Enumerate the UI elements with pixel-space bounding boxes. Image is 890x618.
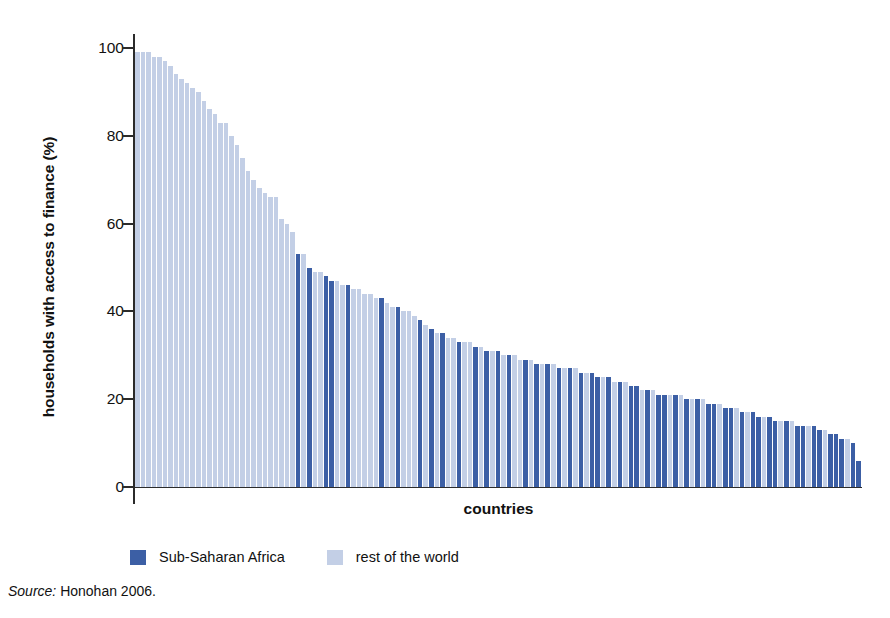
legend-item-rest-of-the-world: rest of the world	[327, 549, 459, 565]
legend-label-rest-of-the-world: rest of the world	[356, 549, 459, 565]
y-axis-tick-mark	[122, 223, 134, 225]
y-axis-tick-labels: 100806040200	[78, 0, 124, 618]
y-axis-tick-label: 80	[78, 128, 124, 144]
y-axis-title: households with access to finance (%)	[40, 62, 58, 492]
x-axis-title: countries	[135, 500, 862, 518]
y-axis-tick-label: 0	[78, 479, 124, 495]
y-axis-tick-label: 100	[78, 40, 124, 56]
source-text: Honohan 2006.	[60, 583, 156, 599]
y-axis-tick-label: 40	[78, 303, 124, 319]
plot-area	[135, 48, 862, 487]
y-axis-tick-label: 20	[78, 391, 124, 407]
y-axis-tick-label: 60	[78, 216, 124, 232]
legend-label-sub-saharan-africa: Sub-Saharan Africa	[159, 549, 285, 565]
y-axis-tick-mark	[122, 47, 134, 49]
legend-swatch-icon-rest-of-the-world	[327, 550, 343, 565]
y-axis-tick-mark	[122, 398, 134, 400]
y-axis-tick-mark	[122, 135, 134, 137]
bar-series-container	[135, 48, 862, 487]
y-axis-tick-mark	[122, 310, 134, 312]
figure-bar-chart-access-to-finance: households with access to finance (%) 10…	[0, 0, 890, 618]
bar	[856, 461, 862, 487]
y-axis-tick-mark	[122, 486, 134, 488]
legend-swatch-icon-sub-saharan-africa	[130, 550, 146, 565]
legend-item-sub-saharan-africa: Sub-Saharan Africa	[130, 549, 285, 565]
source-note: Source: Honohan 2006.	[8, 583, 156, 599]
source-prefix: Source:	[8, 583, 56, 599]
chart-legend: Sub-Saharan Africa rest of the world	[130, 549, 459, 565]
